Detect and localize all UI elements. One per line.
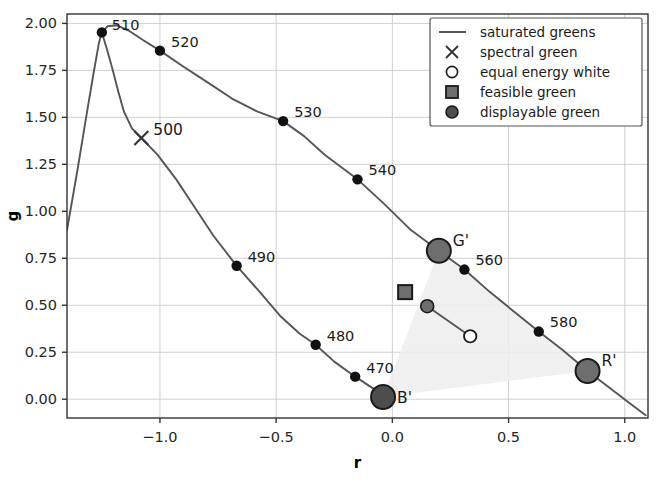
- wavelength-label-470: 470: [366, 360, 394, 376]
- ytick-label-2: 0.50: [25, 297, 57, 313]
- wavelength-marker-490: [231, 261, 241, 271]
- wavelength-marker-520: [155, 45, 165, 55]
- point-label-R: R': [602, 352, 617, 370]
- ytick-label-8: 2.00: [25, 15, 57, 31]
- wavelength-label-490: 490: [248, 249, 276, 265]
- wavelength-label-510: 510: [112, 17, 140, 33]
- point-label-500: 500: [153, 121, 183, 139]
- legend-label-displayable-green: displayable green: [480, 104, 600, 120]
- legend-label-spectral-green: spectral green: [480, 44, 577, 60]
- ytick-label-4: 1.00: [25, 203, 57, 219]
- y-axis-title: g: [4, 211, 22, 222]
- point-label-G: G': [453, 232, 469, 250]
- wavelength-label-580: 580: [550, 314, 578, 330]
- wavelength-label-480: 480: [327, 328, 355, 344]
- wavelength-marker-560: [459, 264, 469, 274]
- point-label-B: B': [397, 389, 412, 407]
- marker-displayable-green-small: [421, 300, 434, 313]
- marker-equal-energy-white: [464, 330, 476, 342]
- ytick-label-1: 0.25: [25, 344, 57, 360]
- x-axis-title: r: [354, 454, 362, 472]
- wavelength-label-540: 540: [369, 162, 397, 178]
- ytick-label-3: 0.75: [25, 250, 57, 266]
- marker-primary-B: [371, 385, 395, 409]
- wavelength-marker-510: [97, 27, 107, 37]
- xtick-label-2: 0.0: [381, 429, 404, 445]
- legend-label-equal-energy-white: equal energy white: [480, 64, 610, 80]
- xtick-label-3: 0.5: [497, 429, 520, 445]
- ytick-label-6: 1.50: [25, 109, 57, 125]
- xtick-label-0: −1.0: [142, 429, 177, 445]
- ytick-label-7: 1.75: [25, 62, 57, 78]
- xtick-label-1: −0.5: [259, 429, 294, 445]
- wavelength-label-560: 560: [475, 252, 503, 268]
- legend-marker-feasible-green: [446, 86, 458, 98]
- legend-marker-displayable-green: [446, 106, 458, 118]
- legend-label-saturated-greens: saturated greens: [480, 24, 595, 40]
- chart-canvas: 510520530540560580490480470500G'R'B'−1.0…: [0, 0, 667, 488]
- wavelength-marker-540: [352, 174, 362, 184]
- wavelength-label-520: 520: [171, 34, 199, 50]
- wavelength-marker-470: [350, 371, 360, 381]
- chromaticity-figure: 510520530540560580490480470500G'R'B'−1.0…: [0, 0, 667, 488]
- ytick-label-5: 1.25: [25, 156, 57, 172]
- wavelength-marker-580: [534, 326, 544, 336]
- wavelength-marker-530: [278, 116, 288, 126]
- wavelength-marker-480: [310, 340, 320, 350]
- legend-label-feasible-green: feasible green: [480, 84, 576, 100]
- marker-feasible-green: [398, 285, 412, 299]
- marker-primary-G: [427, 239, 451, 263]
- ytick-label-0: 0.00: [25, 391, 57, 407]
- wavelength-label-530: 530: [294, 104, 322, 120]
- xtick-label-4: 1.0: [613, 429, 636, 445]
- legend-marker-equal-energy-white: [446, 66, 457, 77]
- marker-primary-R: [576, 359, 600, 383]
